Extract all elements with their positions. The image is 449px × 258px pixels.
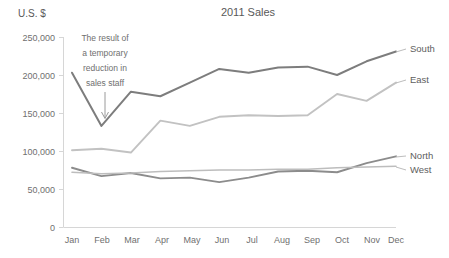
leader-west <box>396 167 406 170</box>
leader-north <box>396 156 406 157</box>
series-line-east <box>72 83 396 153</box>
x-tick-label-feb: Feb <box>94 235 110 245</box>
leader-east <box>396 80 406 83</box>
y-tick-label-50000: 50,000 <box>27 185 55 195</box>
y-tick-label-150000: 150,000 <box>22 109 55 119</box>
annotation-line-4: sales staff <box>86 78 125 88</box>
x-tick-label-aug: Aug <box>274 235 290 245</box>
y-tick-label-0: 0 <box>50 223 55 233</box>
series-label-west: West <box>410 164 432 175</box>
x-tick-label-dec: Dec <box>388 235 405 245</box>
x-tick-label-jul: Jul <box>246 235 258 245</box>
annotation-line-2: a temporary <box>82 48 128 58</box>
y-axis-ticks <box>59 38 64 228</box>
series-label-east: East <box>410 74 429 85</box>
x-tick-label-oct: Oct <box>335 235 350 245</box>
annotation-arrow-icon <box>102 92 109 119</box>
x-tick-label-may: May <box>183 235 201 245</box>
y-axis-unit-label: U.S. $ <box>18 8 46 19</box>
x-tick-label-sep: Sep <box>304 235 320 245</box>
x-tick-label-apr: Apr <box>155 235 169 245</box>
x-tick-label-jan: Jan <box>65 235 80 245</box>
x-tick-label-jun: Jun <box>215 235 230 245</box>
y-tick-label-200000: 200,000 <box>22 71 55 81</box>
x-tick-label-nov: Nov <box>364 235 381 245</box>
leader-south <box>396 49 406 52</box>
series-label-leaders <box>396 49 406 170</box>
chart-title: 2011 Sales <box>221 6 276 18</box>
annotation-line-1: The result of <box>81 33 129 43</box>
series-label-south: South <box>410 43 435 54</box>
annotation-line-3: reduction in <box>83 63 127 73</box>
sales-line-chart: U.S. $ 2011 Sales 250,000 200,000 150,00… <box>0 0 449 258</box>
y-tick-label-100000: 100,000 <box>22 147 55 157</box>
y-tick-label-250000: 250,000 <box>22 33 55 43</box>
x-tick-label-mar: Mar <box>124 235 140 245</box>
series-label-north: North <box>410 150 433 161</box>
chart-canvas: U.S. $ 2011 Sales 250,000 200,000 150,00… <box>0 0 449 258</box>
